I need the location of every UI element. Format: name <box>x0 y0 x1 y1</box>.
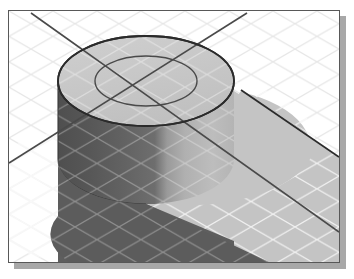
cad-scene[interactable] <box>9 11 339 262</box>
cad-screenshot-root <box>0 0 354 279</box>
cad-viewport-frame[interactable] <box>8 10 340 263</box>
isometric-render <box>9 11 339 262</box>
